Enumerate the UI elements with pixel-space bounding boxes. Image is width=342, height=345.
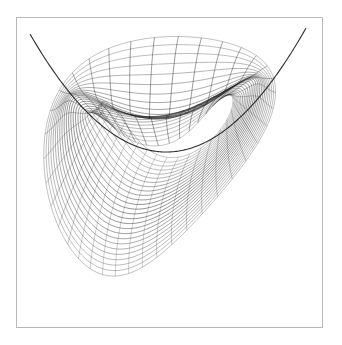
line-art-canvas	[0, 0, 342, 345]
line-art-figure	[0, 0, 342, 345]
